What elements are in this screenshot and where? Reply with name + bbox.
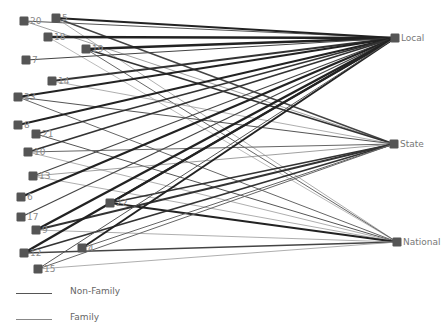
node-square-icon bbox=[44, 33, 53, 42]
node-square-icon bbox=[78, 244, 87, 253]
node-layer: 205181971423821101361722912415LocalState… bbox=[14, 13, 441, 274]
node-square-icon bbox=[393, 238, 402, 247]
legend-item-family: Family bbox=[14, 312, 214, 332]
legend-line-icon bbox=[16, 319, 52, 320]
node-6[interactable]: 6 bbox=[17, 192, 34, 202]
node-label: National bbox=[403, 237, 441, 247]
node-label: 23 bbox=[24, 92, 35, 102]
node-national[interactable]: National bbox=[393, 237, 441, 247]
node-label: 15 bbox=[44, 264, 55, 274]
node-20[interactable]: 20 bbox=[20, 16, 42, 26]
node-label: State bbox=[400, 139, 424, 149]
node-9[interactable]: 9 bbox=[32, 225, 49, 235]
node-square-icon bbox=[24, 148, 33, 157]
node-label: 4 bbox=[88, 243, 94, 253]
node-12[interactable]: 12 bbox=[20, 248, 42, 258]
node-square-icon bbox=[391, 34, 400, 43]
node-square-icon bbox=[20, 17, 29, 26]
node-label: 20 bbox=[30, 16, 42, 26]
node-5[interactable]: 5 bbox=[52, 13, 68, 23]
node-label: 22 bbox=[116, 198, 127, 208]
legend: Non-Family Family bbox=[14, 286, 214, 332]
node-10[interactable]: 10 bbox=[24, 147, 46, 157]
node-square-icon bbox=[14, 121, 23, 130]
node-label: 9 bbox=[42, 225, 48, 235]
node-label: 7 bbox=[32, 55, 38, 65]
legend-line-icon bbox=[16, 293, 52, 294]
edge-layer bbox=[18, 18, 397, 269]
node-7[interactable]: 7 bbox=[22, 55, 38, 65]
edge-4-state bbox=[82, 144, 394, 248]
legend-label: Non-Family bbox=[70, 286, 120, 296]
node-square-icon bbox=[32, 226, 41, 235]
node-square-icon bbox=[22, 56, 31, 65]
network-graph: 205181971423821101361722912415LocalState… bbox=[0, 0, 447, 280]
node-19[interactable]: 19 bbox=[82, 44, 104, 54]
node-square-icon bbox=[82, 45, 91, 54]
legend-item-non-family: Non-Family bbox=[14, 286, 214, 312]
node-square-icon bbox=[32, 130, 41, 139]
node-label: 19 bbox=[92, 44, 104, 54]
node-22[interactable]: 22 bbox=[106, 198, 128, 208]
node-label: 13 bbox=[39, 171, 50, 181]
node-square-icon bbox=[17, 193, 26, 202]
node-square-icon bbox=[34, 265, 43, 274]
node-square-icon bbox=[20, 249, 29, 258]
node-square-icon bbox=[17, 213, 26, 222]
node-label: Local bbox=[401, 33, 424, 43]
edge-18-local bbox=[48, 37, 395, 38]
node-label: 18 bbox=[54, 32, 66, 42]
node-square-icon bbox=[29, 172, 38, 181]
node-label: 5 bbox=[62, 13, 68, 23]
node-18[interactable]: 18 bbox=[44, 32, 66, 42]
node-17[interactable]: 17 bbox=[17, 212, 39, 222]
node-square-icon bbox=[52, 14, 61, 23]
edge-22-national bbox=[110, 203, 397, 242]
node-square-icon bbox=[390, 140, 399, 149]
node-label: 12 bbox=[30, 248, 41, 258]
edge-7-local bbox=[26, 38, 395, 60]
node-square-icon bbox=[48, 77, 57, 86]
node-8[interactable]: 8 bbox=[14, 120, 31, 130]
node-label: 17 bbox=[27, 212, 38, 222]
legend-label: Family bbox=[70, 312, 99, 322]
node-23[interactable]: 23 bbox=[14, 92, 36, 102]
edge-4-local bbox=[82, 38, 395, 248]
node-label: 21 bbox=[42, 129, 53, 139]
node-4[interactable]: 4 bbox=[78, 243, 95, 253]
node-13[interactable]: 13 bbox=[29, 171, 51, 181]
node-14[interactable]: 14 bbox=[48, 76, 70, 86]
node-15[interactable]: 15 bbox=[34, 264, 56, 274]
node-21[interactable]: 21 bbox=[32, 129, 54, 139]
node-label: 6 bbox=[27, 192, 33, 202]
node-local[interactable]: Local bbox=[391, 33, 425, 43]
edge-5-local bbox=[56, 18, 395, 38]
edge-8-local bbox=[18, 38, 395, 125]
node-square-icon bbox=[14, 93, 23, 102]
node-label: 8 bbox=[24, 120, 30, 130]
node-label: 10 bbox=[34, 147, 46, 157]
node-state[interactable]: State bbox=[390, 139, 425, 149]
node-square-icon bbox=[106, 199, 115, 208]
node-label: 14 bbox=[58, 76, 70, 86]
